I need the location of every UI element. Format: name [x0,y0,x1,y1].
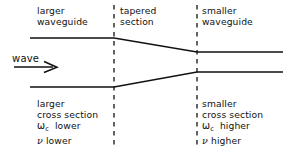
annotation-left-line3: ωc lower [37,120,98,135]
label-smaller-waveguide-line2: waveguide [202,16,253,27]
lower-wall-line [30,72,283,87]
omega-subscript: c [210,125,214,133]
annotation-left-line3-text: lower [55,120,81,131]
annotation-right-line3: ωc higher [202,120,263,135]
waveguide-taper-diagram: wave larger waveguide tapered section sm… [0,0,289,152]
annotation-right-line1: smaller [202,98,263,109]
label-smaller-waveguide: smaller waveguide [202,5,253,27]
annotation-left-line4-text: lower [46,135,72,146]
upper-wall-line [30,38,283,52]
label-tapered-section: tapered section [120,5,156,27]
label-smaller-waveguide-line1: smaller [202,5,253,16]
wave-label: wave [12,53,39,64]
label-tapered-section-line2: section [120,16,156,27]
nu-symbol: ν [202,135,208,146]
annotation-right-line4-text: higher [211,135,241,146]
label-larger-waveguide-line2: waveguide [37,16,88,27]
omega-symbol: ω [37,120,45,131]
label-larger-waveguide: larger waveguide [37,5,88,27]
nu-symbol: ν [37,135,43,146]
label-larger-waveguide-line1: larger [37,5,88,16]
annotation-left-line2: cross section [37,109,98,120]
omega-symbol: ω [202,120,210,131]
annotation-right-line4: ν higher [202,135,263,146]
annotation-smaller-cross-section: smaller cross section ωc higher ν higher [202,98,263,146]
label-tapered-section-line1: tapered [120,5,156,16]
omega-subscript: c [45,125,49,133]
annotation-left-line1: larger [37,98,98,109]
annotation-right-line3-text: higher [220,120,250,131]
annotation-right-line2: cross section [202,109,263,120]
annotation-left-line4: ν lower [37,135,98,146]
annotation-larger-cross-section: larger cross section ωc lower ν lower [37,98,98,146]
